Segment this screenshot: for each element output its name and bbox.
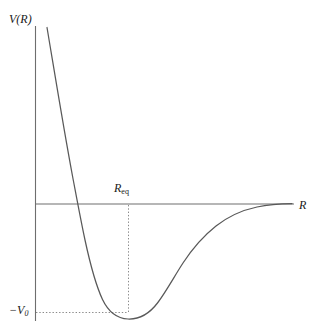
y-axis-label: V(R): [9, 13, 32, 25]
x-axis-label-text: R: [299, 198, 306, 212]
x-axis-label: R: [299, 199, 306, 211]
equilibrium-distance-label: Req: [114, 182, 129, 194]
potential-curve: [47, 28, 292, 320]
y-axis-label-text: V(R): [9, 12, 32, 26]
well-depth-label-subscript: 0: [24, 309, 28, 318]
equilibrium-label-subscript: eq: [121, 187, 129, 196]
potential-energy-figure: V(R) R Req −V0: [0, 0, 316, 332]
well-depth-minus-sign: −: [9, 303, 17, 317]
potential-energy-plot: [0, 0, 316, 332]
well-depth-label: −V0: [9, 304, 28, 316]
